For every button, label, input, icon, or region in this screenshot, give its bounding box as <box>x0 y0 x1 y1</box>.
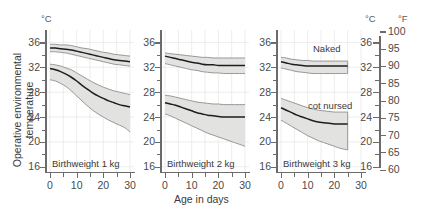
chart-figure: Operative environmental temperature °C B… <box>0 0 422 215</box>
panel-1-ytick-36 <box>40 42 46 43</box>
panel-3-y-tick-label-16: 16 <box>246 161 271 172</box>
right-f-tick-label-85: 85 <box>388 78 414 89</box>
panel-1-ytick-20 <box>40 142 46 143</box>
panel-2-yminor-26 <box>157 105 161 106</box>
panel-3-yminor-18 <box>273 154 277 155</box>
panel-3-y-tick-label-20: 20 <box>246 136 271 147</box>
right-ftick-65 <box>380 152 386 153</box>
panel-2-y-tick-label-36: 36 <box>130 37 155 48</box>
panel-2-y-tick-label-20: 20 <box>130 136 155 147</box>
panel-2-xtick-10 <box>192 173 193 178</box>
right-axis-unit-celsius: °C <box>365 14 376 24</box>
panel-2-xtick-0 <box>165 173 166 178</box>
panel-2-ytick-24 <box>155 117 161 118</box>
panel-2-xminor-15 <box>205 173 206 177</box>
right-ftick-90 <box>380 66 386 67</box>
panel-1-xminor-5 <box>63 173 64 177</box>
panel-2-x-tick-label-10: 10 <box>181 180 203 191</box>
panel-3-yminor-22 <box>273 130 277 131</box>
panel-1-xtick-0 <box>50 173 51 178</box>
right-ftick-60 <box>380 170 386 171</box>
panel-2-ytick-32 <box>155 67 161 68</box>
right-c-tick-label-20: 20 <box>347 136 372 147</box>
right-cminor-26 <box>375 105 379 106</box>
panel-1-ytick-32 <box>40 67 46 68</box>
y-tick-label-16: 16 <box>14 161 40 172</box>
y-tick-label-20: 20 <box>14 136 40 147</box>
right-f-tick-label-80: 80 <box>388 95 414 106</box>
panel-3-x-tick-label-10: 10 <box>297 180 319 191</box>
right-ftick-80 <box>380 101 386 102</box>
panel-1-x-tick-label-30: 30 <box>119 180 141 191</box>
right-c-tick-label-16: 16 <box>347 161 372 172</box>
panel-2-yminor-18 <box>157 154 161 155</box>
panel-1-yminor-30 <box>42 80 46 81</box>
panel-3-ytick-32 <box>271 67 277 68</box>
panel-3kg-y-spine <box>276 30 278 173</box>
y-tick-label-36: 36 <box>14 37 40 48</box>
panel-3-xminor-15 <box>321 173 322 177</box>
right-ftick-85 <box>380 83 386 84</box>
right-cminor-34 <box>375 55 379 56</box>
right-c-tick-label-24: 24 <box>347 112 372 123</box>
panel-2-x-tick-label-30: 30 <box>234 180 256 191</box>
panel-1-ytick-28 <box>40 92 46 93</box>
panel-2kg-label: Birthweight 2 kg <box>167 159 235 169</box>
panel-2-x-tick-label-20: 20 <box>207 180 229 191</box>
panel-2-ytick-16 <box>155 167 161 168</box>
panel-3-yminor-34 <box>273 55 277 56</box>
panel-3-xtick-0 <box>281 173 282 178</box>
panel-1kg <box>46 30 134 173</box>
panel-2-x-tick-label-0: 0 <box>154 180 176 191</box>
right-ctick-20 <box>373 142 379 143</box>
panel-2-y-tick-label-24: 24 <box>130 112 155 123</box>
right-c-tick-label-28: 28 <box>347 87 372 98</box>
x-axis-title: Age in days <box>174 194 229 205</box>
panel-2kg-y-spine <box>160 30 162 173</box>
panel-1-xtick-30 <box>130 173 131 178</box>
right-ftick-75 <box>380 118 386 119</box>
panel-1-x-tick-label-20: 20 <box>92 180 114 191</box>
panel-3-ytick-24 <box>271 117 277 118</box>
right-f-tick-label-70: 70 <box>388 130 414 141</box>
right-axis-spine <box>379 36 381 168</box>
right-f-tick-label-60: 60 <box>388 164 414 175</box>
y-tick-label-32: 32 <box>14 62 40 73</box>
panel-1-xtick-20 <box>103 173 104 178</box>
panel-3-y-tick-label-28: 28 <box>246 87 271 98</box>
panel-3-x-tick-label-0: 0 <box>270 180 292 191</box>
y-tick-label-28: 28 <box>14 87 40 98</box>
right-ctick-36 <box>373 42 379 43</box>
right-f-tick-label-100: 100 <box>388 26 414 37</box>
panel-2-y-tick-label-16: 16 <box>130 161 155 172</box>
panel-1-yminor-26 <box>42 105 46 106</box>
right-ctick-24 <box>373 117 379 118</box>
right-cminor-30 <box>375 80 379 81</box>
right-c-tick-label-36: 36 <box>347 37 372 48</box>
panel-2-yminor-22 <box>157 130 161 131</box>
panel-2-ytick-36 <box>155 42 161 43</box>
panel-1-yminor-34 <box>42 55 46 56</box>
panel-1kg-y-spine <box>45 30 47 173</box>
panel-2-xtick-30 <box>245 173 246 178</box>
panel-3-y-tick-label-36: 36 <box>246 37 271 48</box>
y-tick-label-24: 24 <box>14 112 40 123</box>
panel-1-yminor-18 <box>42 154 46 155</box>
panel-3-xtick-10 <box>308 173 309 178</box>
right-cminor-18 <box>375 154 379 155</box>
panel-1-yminor-22 <box>42 130 46 131</box>
right-f-tick-label-65: 65 <box>388 147 414 158</box>
panel-3-xminor-25 <box>348 173 349 177</box>
panel-2-yminor-34 <box>157 55 161 56</box>
right-cminor-22 <box>375 130 379 131</box>
panel-2kg <box>161 30 249 173</box>
right-f-tick-label-75: 75 <box>388 112 414 123</box>
panel-1-xminor-15 <box>90 173 91 177</box>
panel-3-xtick-30 <box>361 173 362 178</box>
panel-3-x-tick-label-20: 20 <box>323 180 345 191</box>
right-ctick-28 <box>373 92 379 93</box>
panel-3-y-tick-label-24: 24 <box>246 112 271 123</box>
panel-3-ytick-16 <box>271 167 277 168</box>
panel-1-xminor-25 <box>117 173 118 177</box>
panel-3-ytick-36 <box>271 42 277 43</box>
